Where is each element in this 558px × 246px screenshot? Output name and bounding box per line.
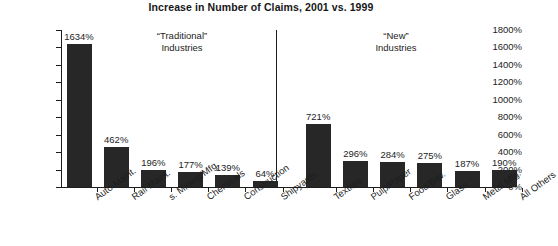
x-axis-category-label: s. Mining/Mfg. [167, 194, 173, 202]
group-divider [276, 30, 277, 187]
y-axis [61, 30, 62, 188]
x-axis-category-label: Textiles [332, 194, 338, 202]
chart-title: Increase in Number of Claims, 2001 vs. 1… [0, 1, 522, 13]
x-axis-category-label: Pulp/Paper [369, 194, 375, 202]
group-caption-new: “New” Industries [332, 30, 460, 53]
y-axis-tick-label: 600% [470, 130, 522, 140]
y-axis-tick-label: 1400% [470, 60, 522, 70]
x-axis-category-label: Auto Maint. [93, 194, 99, 202]
bar-value-label: 190% [474, 158, 534, 168]
y-axis-tick [56, 47, 61, 48]
x-axis-category-label: Shipyards [279, 194, 285, 202]
group-caption-traditional-line1: “Traditional” [118, 30, 246, 42]
x-axis-category-label: Food/Bev. [407, 194, 413, 202]
bar-value-label: 721% [288, 112, 348, 122]
y-axis-tick-label: 1800% [470, 25, 522, 35]
y-axis-tick-label: 1000% [470, 95, 522, 105]
group-caption-traditional-line2: Industries [118, 42, 246, 54]
y-axis-tick-label: 800% [470, 112, 522, 122]
bar [67, 44, 92, 187]
y-axis-tick [56, 152, 61, 153]
y-axis-tick [56, 82, 61, 83]
bar-value-label: 1634% [49, 32, 109, 42]
x-axis-category-label: Glass [444, 194, 450, 202]
y-axis-tick [56, 30, 61, 31]
x-axis-category-label: Construction [242, 194, 248, 202]
group-caption-new-line1: “New” [332, 30, 460, 42]
bar-value-label: 462% [86, 135, 146, 145]
group-caption-traditional: “Traditional” Industries [118, 30, 246, 53]
y-axis-tick-label: 400% [470, 147, 522, 157]
y-axis-tick-label: 1600% [470, 42, 522, 52]
y-axis-tick [56, 117, 61, 118]
y-axis-tick [56, 100, 61, 101]
x-axis-category-label: Chemicals [205, 194, 211, 202]
x-axis-category-label: Metal Mfg. [481, 194, 487, 202]
y-axis-tick [56, 170, 61, 171]
y-axis-tick [56, 135, 61, 136]
x-axis-category-label: All Others [518, 194, 524, 202]
y-axis-tick [56, 65, 61, 66]
y-axis-tick-label: 1200% [470, 77, 522, 87]
y-axis-tick [56, 187, 61, 188]
x-axis-category-label: Rail Maint. [130, 194, 136, 202]
group-caption-new-line2: Industries [332, 42, 460, 54]
